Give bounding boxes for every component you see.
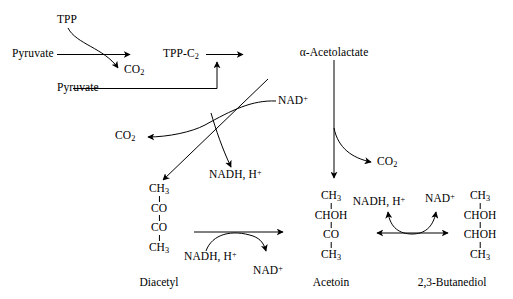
label-nadh-h-2: NADH, H+ [184, 251, 237, 263]
acetoin-atom-3: CO [315, 229, 348, 241]
pathway-diagram: TPP Pyruvate Pyruvate CO2 TPP-C2 α-Aceto… [0, 0, 513, 299]
curve-nad-to-nadh [211, 113, 231, 167]
arrow-tppc2-to-diacetyl [163, 79, 268, 180]
label-tpp: TPP [57, 14, 77, 26]
butanediol-atom-4: CH3 [464, 249, 497, 261]
caption-diacetyl: Diacetyl [140, 276, 179, 288]
label-co2-3-text: CO [377, 155, 393, 167]
label-co2-2-sub: 2 [131, 134, 135, 143]
acetoin-atom-2: CHOH [315, 210, 348, 222]
label-nadh-h-1-text: NADH, H [209, 168, 257, 180]
label-nad-plus-3-text: NAD [425, 192, 450, 204]
acetoin-atom-4: CH3 [315, 249, 348, 261]
label-co2-2: CO2 [115, 130, 135, 142]
label-co2-1-text: CO [124, 63, 140, 75]
label-tpp-c2: TPP-C2 [163, 48, 199, 60]
label-nadh-h-3-text: NADH, H [353, 195, 401, 207]
butanediol-atom-3: CHOH [464, 229, 497, 241]
pathway-arrows-layer [0, 0, 513, 299]
butanediol-atom-1: CH3 [464, 190, 497, 202]
label-tpp-c2-text: TPP-C [163, 47, 195, 59]
acetoin-atom-1: CH3 [315, 190, 348, 202]
diacetyl-atom-4: CH3 [149, 242, 169, 254]
label-tpp-c2-sub: 2 [195, 52, 199, 61]
label-co2-3: CO2 [377, 156, 397, 168]
label-pyruvate-1: Pyruvate [12, 48, 54, 60]
diacetyl-atom-3: CO [149, 222, 169, 234]
label-nad-plus-3-sup: + [450, 192, 455, 201]
curve-tpp-to-co2 [68, 28, 118, 68]
label-pyruvate-2: Pyruvate [57, 82, 99, 94]
label-nadh-h-1-sup: + [257, 168, 262, 177]
curve-nadh-nad-butanediol [388, 212, 436, 234]
label-nadh-h-3-sup: + [401, 195, 406, 204]
label-nadh-h-3: NADH, H+ [353, 196, 406, 208]
butanediol-atom-2: CHOH [464, 210, 497, 222]
molecule-diacetyl: CH3 CO CO CH3 [149, 183, 169, 253]
label-alpha-acetolactate: α-Acetolactate [300, 47, 369, 59]
molecule-acetoin: CH3 CHOH CO CH3 [315, 190, 348, 260]
label-nadh-h-2-sup: + [232, 250, 237, 259]
diacetyl-atom-1: CH3 [149, 183, 169, 195]
label-nad-plus-3: NAD+ [425, 193, 455, 205]
label-co2-1-sub: 2 [140, 68, 144, 77]
curve-acetolactate-to-co2 [334, 128, 371, 162]
label-co2-1: CO2 [124, 64, 144, 76]
label-co2-2-text: CO [115, 129, 131, 141]
label-nad-plus-1-text: NAD [278, 94, 303, 106]
label-nadh-h-2-text: NADH, H [184, 250, 232, 262]
caption-butanediol: 2,3-Butanediol [418, 276, 487, 288]
curve-nadh-to-nad-diacetyl [206, 233, 266, 251]
label-co2-3-sub: 2 [393, 160, 397, 169]
label-nadh-h-1: NADH, H+ [209, 169, 262, 181]
diacetyl-atom-2: CO [149, 203, 169, 215]
molecule-butanediol: CH3 CHOH CHOH CH3 [464, 190, 497, 260]
label-nad-plus-1: NAD+ [278, 95, 308, 107]
label-nad-plus-1-sup: + [303, 94, 308, 103]
label-nad-plus-2-sup: + [278, 264, 283, 273]
curve-nad-to-co2 [148, 101, 276, 137]
label-nad-plus-2: NAD+ [253, 265, 283, 277]
caption-acetoin: Acetoin [313, 276, 349, 288]
label-nad-plus-2-text: NAD [253, 264, 278, 276]
